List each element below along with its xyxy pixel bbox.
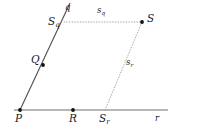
geometry-figure: q r P Q R S Sq Sr sq sr	[0, 0, 203, 135]
label-line-q-text: q	[65, 2, 70, 12]
label-point-Q: Q	[31, 54, 40, 65]
label-line-r-text: r	[155, 113, 159, 123]
label-segment-sr: sr	[126, 58, 133, 68]
label-point-P: P	[15, 113, 22, 124]
segment-sr	[105, 22, 142, 110]
label-line-r: r	[155, 114, 159, 123]
label-segment-sq: sq	[97, 6, 105, 16]
line-q	[20, 3, 70, 110]
label-point-Sr: Sr	[99, 113, 110, 125]
label-point-P-text: P	[15, 112, 22, 124]
label-point-R: R	[69, 113, 77, 124]
label-point-R-text: R	[69, 112, 77, 124]
label-point-S: S	[147, 13, 154, 24]
label-line-q: q	[65, 3, 70, 12]
label-point-Sr-sub: r	[106, 117, 109, 126]
point-Q-dot	[41, 63, 45, 67]
label-point-S-text: S	[147, 12, 154, 24]
label-point-Sq: Sq	[48, 16, 60, 28]
label-segment-sr-sub: r	[130, 62, 133, 68]
label-point-Sq-sub: q	[55, 20, 60, 29]
label-segment-sq-sub: q	[101, 10, 105, 16]
point-S-dot	[140, 20, 144, 24]
label-point-Q-text: Q	[31, 53, 40, 65]
